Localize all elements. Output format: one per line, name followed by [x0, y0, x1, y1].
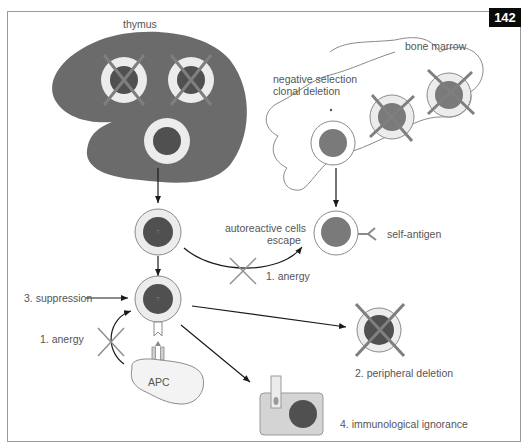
label-negative-selection: negative selection	[273, 73, 357, 85]
immune-tolerance-diagram: T T B	[0, 0, 529, 447]
bone-marrow-b-cell	[311, 121, 355, 165]
bone-marrow-deleted-cell-1	[370, 95, 414, 141]
b-cell-letter: B	[334, 229, 338, 235]
label-self-antigen: self-antigen	[387, 228, 441, 240]
anergy-cross-apc	[98, 328, 124, 356]
arrow-apc-to-t-cell	[111, 311, 131, 364]
t-cell-central: T	[135, 276, 181, 322]
label-anergy-apc: 1. anergy	[40, 333, 84, 345]
label-escape: escape	[267, 234, 301, 246]
label-peripheral-deletion: 2. peripheral deletion	[355, 367, 453, 379]
dot-marker	[330, 109, 332, 111]
label-thymus: thymus	[123, 18, 157, 30]
label-apc: APC	[148, 376, 170, 388]
page-number-badge: 142	[489, 8, 521, 27]
label-clonal-deletion: clonal deletion	[273, 85, 340, 97]
antibody-receptor-icon	[358, 228, 376, 240]
arrow-to-peripheral-deletion	[192, 306, 346, 327]
t-cell-receptor	[154, 322, 162, 336]
t-cell-letter: T	[156, 229, 160, 235]
label-autoreactive-cells: autoreactive cells	[218, 222, 313, 234]
peripheral-deleted-t-cell	[356, 304, 404, 356]
anergy-cross-b	[230, 258, 256, 284]
label-immunological-ignorance: 4. immunological ignorance	[340, 418, 468, 430]
immunologically-ignored-cell	[260, 376, 323, 435]
bone-marrow-deleted-cell-2	[427, 70, 474, 117]
thymus-organ	[52, 32, 247, 183]
label-bone-marrow: bone marrow	[405, 40, 466, 52]
b-cell: B	[314, 211, 358, 255]
t-cell-mature: T	[135, 209, 181, 255]
mhc-peptide	[152, 341, 164, 360]
label-anergy-b: 1. anergy	[266, 270, 310, 282]
t-cell-letter: T	[156, 296, 160, 302]
label-suppression: 3. suppression	[24, 292, 92, 304]
thymus-surviving-t-cell	[144, 118, 190, 164]
arrow-t-cell-to-b-cell	[184, 247, 302, 268]
